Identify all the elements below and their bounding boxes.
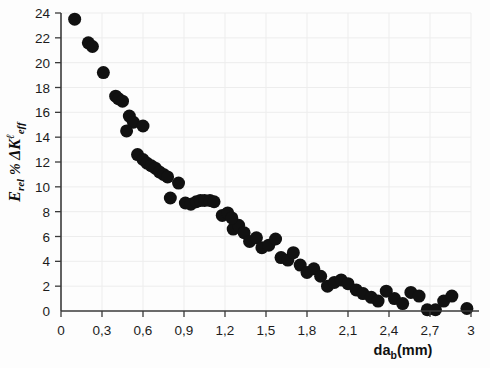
- x-axis-tick-label: 0,6: [134, 323, 153, 338]
- data-point: [225, 211, 238, 224]
- y-axis-tick-label: 2: [42, 279, 50, 294]
- data-point: [208, 195, 221, 208]
- y-axis-tick-label: 18: [35, 81, 50, 96]
- data-point: [269, 232, 282, 245]
- y-axis-tick-label: 24: [35, 6, 51, 21]
- data-point: [68, 13, 81, 26]
- y-axis-tick-label: 22: [35, 31, 50, 46]
- y-axis-title-percent: %: [8, 163, 23, 175]
- x-axis-title-da: da: [374, 342, 392, 358]
- data-point: [164, 192, 177, 205]
- y-axis-tick-label: 14: [35, 130, 51, 145]
- data-point: [413, 290, 426, 303]
- y-axis-tick-label: 6: [42, 230, 50, 245]
- y-axis-tick-label: 10: [35, 180, 50, 195]
- y-axis-title-rel-subscript: rel: [14, 178, 26, 191]
- data-point: [120, 124, 133, 137]
- svg-text:Erel % ΔKℓeff: Erel % ΔKℓeff: [4, 121, 26, 203]
- y-axis-title-delta-k: ΔK: [6, 138, 23, 161]
- x-axis-title: dab(mm): [374, 342, 433, 361]
- data-point: [287, 246, 300, 259]
- y-axis-tick-label: 8: [42, 205, 50, 220]
- y-axis-tick-label: 20: [35, 56, 50, 71]
- y-axis-tick-label: 4: [42, 254, 50, 269]
- gridlines-group: [61, 13, 471, 311]
- x-axis-tick-label: 0: [57, 323, 65, 338]
- data-point: [116, 95, 129, 108]
- x-axis-tick-label: 2,7: [421, 323, 440, 338]
- x-axis-tick-label: 3: [467, 323, 475, 338]
- data-point: [161, 170, 174, 183]
- y-axis-tick-label: 12: [35, 155, 50, 170]
- x-axis-tick-label: 2,1: [339, 323, 358, 338]
- svg-text:dab(mm): dab(mm): [374, 342, 433, 361]
- y-axis-tick-label: 0: [42, 304, 50, 319]
- data-points-group: [68, 13, 473, 317]
- chart-canvas: 00,30,60,91,21,51,82,12,42,73 0246810121…: [0, 0, 490, 368]
- data-point: [396, 297, 409, 310]
- data-point: [372, 295, 385, 308]
- x-axis-tick-label: 0,9: [175, 323, 194, 338]
- data-point: [445, 290, 458, 303]
- x-axis-tick-label: 0,3: [93, 323, 112, 338]
- y-axis-tick-label: 16: [35, 105, 50, 120]
- data-point: [172, 177, 185, 190]
- x-axis-ticks-group: 00,30,60,91,21,51,82,12,42,73: [57, 311, 475, 338]
- scatter-chart-figure: 00,30,60,91,21,51,82,12,42,73 0246810121…: [0, 0, 490, 368]
- y-axis-title: Erel % ΔKℓeff: [4, 121, 26, 203]
- data-point: [97, 66, 110, 79]
- x-axis-tick-label: 1,2: [216, 323, 235, 338]
- data-point: [137, 119, 150, 132]
- x-axis-tick-label: 1,5: [257, 323, 276, 338]
- data-point: [86, 40, 99, 53]
- x-axis-tick-label: 1,8: [298, 323, 317, 338]
- y-axis-title-e: E: [6, 191, 23, 203]
- x-axis-title-unit: (mm): [397, 342, 433, 358]
- y-axis-ticks-group: 024681012141618202224: [35, 6, 61, 319]
- x-axis-tick-label: 2,4: [380, 323, 399, 338]
- y-axis-title-eff-subscript: eff: [14, 121, 26, 134]
